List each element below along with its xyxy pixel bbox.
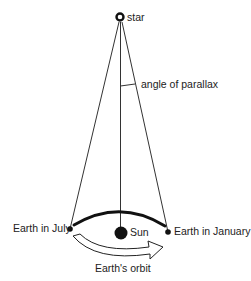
star-label: star <box>127 12 145 23</box>
diagram-graphics <box>0 0 251 281</box>
star-icon <box>117 14 124 21</box>
earth-july-label: Earth in July <box>13 223 71 234</box>
earth-january-dot <box>165 229 171 235</box>
orbit-arc-upper <box>74 212 165 226</box>
orbit-label: Earth's orbit <box>95 263 151 274</box>
earth-january-label: Earth in January <box>174 226 250 237</box>
parallax-diagram: star angle of parallax Earth in July Sun… <box>0 0 251 281</box>
sun-icon <box>115 227 128 240</box>
angle-marker <box>121 84 136 86</box>
sun-label: Sun <box>130 227 149 238</box>
sight-line-january <box>122 22 168 232</box>
sight-line-july <box>70 22 119 229</box>
angle-label: angle of parallax <box>141 79 218 90</box>
